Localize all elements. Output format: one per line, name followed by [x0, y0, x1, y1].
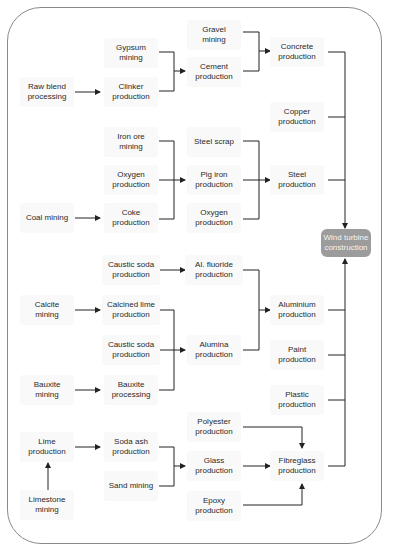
node-glass: Glass production	[187, 451, 241, 481]
node-oxygen2: Oxygen production	[187, 203, 241, 233]
node-bauxite: Bauxite mining	[20, 375, 74, 405]
node-concrete: Concrete production	[270, 37, 324, 67]
node-limestone: Limestone mining	[20, 490, 74, 520]
node-polyester: Polyester production	[187, 412, 241, 442]
node-alumina: Alumina production	[187, 335, 241, 365]
node-ironore: Iron ore mining	[104, 127, 158, 157]
node-oxygen1: Oxygen production	[104, 165, 158, 195]
node-wind-turbine-construction: Wind turbine construction	[321, 229, 371, 257]
node-aluminium: Aluminium production	[270, 295, 324, 325]
node-rawblend: Raw blend processing	[20, 77, 74, 107]
node-steelscrap: Steel scrap	[187, 127, 241, 157]
node-cement: Cement production	[187, 57, 241, 87]
node-coke: Coke production	[104, 203, 158, 233]
node-steel: Steel production	[270, 165, 324, 195]
node-fibreglass: Fibreglass production	[270, 451, 324, 481]
node-alfluoride: Al. fluoride production	[185, 255, 243, 285]
node-bauxproc: Bauxite processing	[104, 375, 158, 405]
node-calcite: Calcite mining	[20, 295, 74, 325]
node-calcined: Calcined lime production	[102, 295, 160, 325]
node-gypsum: Gypsum mining	[104, 38, 158, 68]
node-lime: Lime production	[20, 432, 74, 462]
node-copper: Copper production	[270, 102, 324, 132]
node-plastic: Plastic production	[270, 385, 324, 415]
node-caustic2: Caustic soda production	[102, 335, 160, 365]
node-paint: Paint production	[270, 340, 324, 370]
node-clinker: Clinker production	[104, 77, 158, 107]
node-sand: Sand mining	[104, 471, 158, 501]
node-coal: Coal mining	[20, 203, 74, 233]
node-gravel: Gravel mining	[187, 20, 241, 50]
node-epoxy: Epoxy production	[187, 491, 241, 521]
node-sodaash: Soda ash production	[104, 432, 158, 462]
node-pigiron: Pig iron production	[187, 165, 241, 195]
node-caustic1: Caustic soda production	[102, 255, 160, 285]
